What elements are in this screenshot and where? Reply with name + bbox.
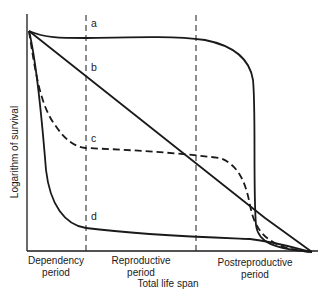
period-postreproductive-line2: period xyxy=(241,269,269,280)
curve-label-a: a xyxy=(91,17,97,29)
curve-label-d: d xyxy=(91,210,97,222)
curve-b xyxy=(29,31,312,252)
period-dependency-line1: Dependency xyxy=(28,255,84,266)
curve-label-b: b xyxy=(91,61,97,73)
survivorship-diagram: a b c d Logarithm of survival Dependency… xyxy=(0,0,328,301)
period-dependency-line2: period xyxy=(42,267,70,278)
curve-label-c: c xyxy=(91,132,96,144)
period-postreproductive-line1: Postreproductive xyxy=(217,257,292,268)
period-reproductive-line1: Reproductive xyxy=(112,255,171,266)
y-axis-label: Logarithm of survival xyxy=(9,106,20,198)
x-axis-label: Total life span xyxy=(137,278,198,289)
period-reproductive-line2: period xyxy=(127,267,155,278)
